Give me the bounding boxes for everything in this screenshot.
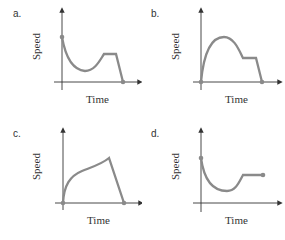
graph-b: b. Speed Time <box>142 0 284 120</box>
speed-curve <box>201 37 262 82</box>
speed-time-plot <box>142 120 285 240</box>
end-dot <box>260 80 265 85</box>
x-axis-label: Time <box>87 214 110 226</box>
y-axis-label: Speed <box>169 153 181 180</box>
x-axis-label: Time <box>86 93 109 105</box>
start-dot <box>61 201 66 206</box>
y-axis-label: Speed <box>30 153 42 180</box>
start-dot <box>199 80 204 85</box>
speed-curve <box>201 158 263 191</box>
speed-curve <box>62 37 123 82</box>
speed-time-plot <box>142 0 285 120</box>
end-dot <box>121 80 126 85</box>
x-axis-label: Time <box>225 214 248 226</box>
start-dot <box>199 156 204 161</box>
x-axis-label: Time <box>225 93 248 105</box>
end-dot <box>261 173 266 178</box>
start-dot <box>60 35 65 40</box>
y-axis-label: Speed <box>169 33 181 60</box>
speed-time-plot <box>0 0 142 120</box>
graph-a: a. Speed Time <box>0 0 142 120</box>
end-dot <box>122 201 127 206</box>
graph-d: d. Speed Time <box>142 120 284 240</box>
y-axis-label: Speed <box>30 33 42 60</box>
speed-curve <box>63 158 124 203</box>
speed-time-plot <box>0 120 142 240</box>
graph-c: c. Speed Time <box>0 120 142 240</box>
